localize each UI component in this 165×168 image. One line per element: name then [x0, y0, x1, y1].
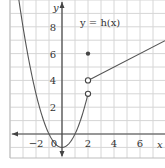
x-tick-label: −2: [29, 138, 44, 149]
y-tick-label: 2: [50, 102, 56, 113]
tick-labels: −202462468: [29, 22, 144, 149]
y-axis-label: y: [52, 2, 59, 13]
graph-of-h: −202462468 y = h(x) x y: [0, 0, 165, 168]
y-tick-label: 8: [50, 22, 56, 33]
x-tick-label: 0: [51, 138, 57, 149]
x-tick-label: 2: [85, 138, 91, 149]
y-tick-label: 4: [50, 75, 56, 86]
open-point: [85, 78, 90, 83]
function-label: y = h(x): [79, 17, 120, 28]
open-point: [85, 91, 90, 96]
x-tick-label: 4: [111, 138, 117, 149]
x-tick-label: 6: [137, 138, 143, 149]
x-axis-label: x: [157, 139, 163, 150]
y-tick-label: 6: [50, 49, 56, 60]
filled-point: [86, 51, 90, 55]
